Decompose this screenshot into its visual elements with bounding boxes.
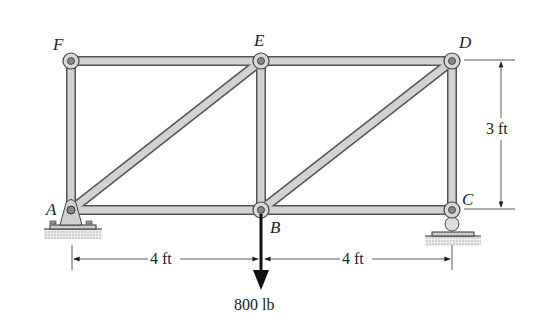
- dimension-AB: 4 ft: [150, 250, 172, 267]
- load-value: 800 lb: [234, 296, 274, 313]
- joint-label-E: E: [253, 31, 265, 50]
- ground-C: [425, 232, 481, 246]
- joint-label-B: B: [270, 218, 281, 237]
- truss-diagram: F E D A B C 800 lb 4 ft 4 ft 3 ft: [0, 0, 548, 329]
- truss-members: [71, 61, 452, 210]
- joint-label-C: C: [462, 190, 474, 209]
- dimension-CD: 3 ft: [486, 120, 508, 137]
- roller-support-C: [445, 217, 459, 231]
- joint-label-A: A: [45, 200, 57, 219]
- ground-A: [44, 225, 102, 239]
- joint-label-F: F: [52, 35, 64, 54]
- dimension-BC: 4 ft: [342, 250, 364, 267]
- load-arrow: [253, 214, 269, 290]
- joint-label-D: D: [458, 33, 472, 52]
